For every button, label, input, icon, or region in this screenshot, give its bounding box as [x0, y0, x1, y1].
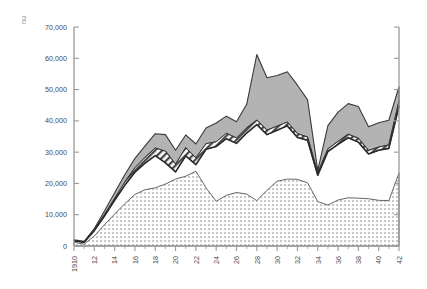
x-tick-label: 24 [212, 256, 221, 264]
x-tick-label: 14 [110, 256, 119, 264]
x-tick-label: 12 [90, 256, 99, 264]
y-tick-label: 30,000 [45, 148, 67, 157]
x-tick-label: 28 [253, 256, 262, 264]
x-tick-label: 1910 [70, 256, 79, 272]
chart-container: 010,00020,00030,00040,00050,00060,00070,… [0, 0, 427, 289]
y-tick-label: 40,000 [45, 116, 67, 125]
x-tick-label: 32 [293, 256, 302, 264]
plot-area [74, 55, 399, 246]
y-tick-label: 20,000 [45, 179, 67, 188]
x-tick-label: 18 [151, 256, 160, 264]
x-tick-label: 36 [334, 256, 343, 264]
x-tick-label: 38 [354, 256, 363, 264]
y-tick-label: 60,000 [45, 54, 67, 63]
x-tick-label: 16 [131, 256, 140, 264]
y-tick-label: 10,000 [45, 210, 67, 219]
x-tick-label: 20 [171, 256, 180, 264]
x-tick-label: 34 [314, 256, 323, 264]
y-tick-label: 70,000 [45, 23, 67, 32]
x-tick-label: 40 [374, 256, 383, 264]
y-tick-label: 50,000 [45, 85, 67, 94]
y-tick-label: 0 [63, 242, 67, 251]
x-tick-label: 26 [232, 256, 241, 264]
x-tick-label: 30 [273, 256, 282, 264]
x-tick-label: 42 [395, 256, 404, 264]
stacked-area-chart: 010,00020,00030,00040,00050,00060,00070,… [0, 0, 427, 289]
x-tick-label: 22 [192, 256, 201, 264]
unit-label: nu [20, 16, 27, 24]
